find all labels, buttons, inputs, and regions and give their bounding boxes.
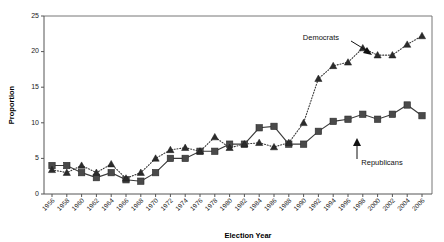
data-point-square [152, 169, 158, 175]
x-axis-ticks: 1956195819601962196419661968197019721974… [41, 194, 426, 212]
data-point-square [389, 111, 395, 117]
x-tick-label: 1980 [218, 196, 233, 211]
data-point-square [345, 116, 351, 122]
data-point-square [256, 125, 262, 131]
x-tick-label: 1956 [41, 196, 56, 211]
x-tick-label: 1986 [263, 196, 278, 211]
x-tick-label: 2002 [381, 196, 396, 211]
y-tick-label: 15 [31, 83, 39, 90]
republicans-annotation-label: Republicans [361, 158, 403, 167]
annotation-republicans-label: Republicans [353, 138, 403, 167]
data-point-triangle [152, 155, 159, 161]
x-tick-label: 2004 [396, 196, 411, 211]
x-tick-label: 1966 [115, 196, 130, 211]
data-point-triangle [315, 75, 322, 81]
data-point-triangle [418, 32, 425, 38]
x-tick-label: 1970 [144, 196, 159, 211]
series-republicans [49, 102, 425, 185]
annotation-democrats-label: Democrats [303, 33, 372, 55]
y-tick-label: 25 [31, 12, 39, 19]
data-point-square [271, 123, 277, 129]
data-point-square [167, 155, 173, 161]
y-tick-label: 20 [31, 47, 39, 54]
x-tick-label: 2006 [411, 196, 426, 211]
plot-frame [44, 16, 432, 194]
chart-container: 0510152025Proportion19561958196019621964… [0, 0, 444, 242]
x-tick-label: 1964 [100, 196, 115, 211]
series-line-democrats [52, 36, 422, 178]
x-tick-label: 2000 [366, 196, 381, 211]
data-point-square [330, 118, 336, 124]
data-point-square [300, 141, 306, 147]
x-tick-label: 1996 [337, 196, 352, 211]
proportion-by-election-year-chart: 0510152025Proportion19561958196019621964… [0, 0, 444, 242]
data-point-square [360, 111, 366, 117]
data-point-square [374, 116, 380, 122]
x-tick-label: 1994 [322, 196, 337, 211]
y-tick-label: 10 [31, 119, 39, 126]
data-point-triangle [93, 169, 100, 175]
x-tick-label: 1992 [307, 196, 322, 211]
republicans-arrow-head [353, 138, 361, 146]
x-tick-label: 1958 [55, 196, 70, 211]
x-tick-label: 1972 [159, 196, 174, 211]
x-tick-label: 1974 [174, 196, 189, 211]
data-point-square [212, 148, 218, 154]
y-axis-title: Proportion [7, 85, 16, 124]
y-axis-ticks: 0510152025 [31, 12, 44, 197]
data-point-square [78, 169, 84, 175]
data-point-triangle [211, 133, 218, 139]
y-tick-label: 0 [35, 190, 39, 197]
series-line-republicans [52, 105, 422, 181]
x-tick-label: 1982 [233, 196, 248, 211]
data-point-triangle [167, 146, 174, 152]
data-point-square [108, 169, 114, 175]
data-point-square [315, 128, 321, 134]
data-point-square [404, 102, 410, 108]
x-tick-label: 1988 [277, 196, 292, 211]
data-point-square [138, 178, 144, 184]
x-tick-label: 1984 [248, 196, 263, 211]
data-point-triangle [78, 162, 85, 168]
data-point-triangle [389, 52, 396, 58]
x-axis-title: Election Year [225, 231, 272, 240]
democrats-annotation-label: Democrats [303, 33, 340, 42]
data-point-square [182, 155, 188, 161]
x-tick-label: 1998 [351, 196, 366, 211]
x-tick-label: 1990 [292, 196, 307, 211]
x-tick-label: 1968 [129, 196, 144, 211]
x-tick-label: 1962 [85, 196, 100, 211]
data-point-triangle [300, 119, 307, 125]
x-tick-label: 1960 [70, 196, 85, 211]
data-point-triangle [108, 160, 115, 166]
x-tick-label: 1976 [189, 196, 204, 211]
x-tick-label: 1978 [203, 196, 218, 211]
data-point-square [419, 112, 425, 118]
data-point-triangle [404, 41, 411, 47]
data-point-triangle [256, 139, 263, 145]
y-tick-label: 5 [35, 154, 39, 161]
data-point-square [64, 162, 70, 168]
data-point-triangle [182, 144, 189, 150]
